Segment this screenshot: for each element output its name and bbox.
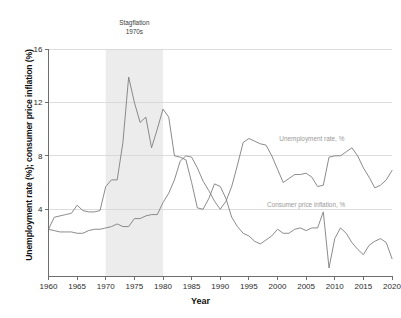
x-axis-title: Year [0, 296, 401, 306]
x-tick-label-1990: 1990 [211, 282, 229, 291]
annotation-label-line1: Stagflation [119, 19, 150, 27]
tick-labels: 4812161960196519701975198019851990199520… [34, 45, 401, 291]
series-label-unemployment-rate: Unemployment rate, % [279, 135, 344, 143]
y-tick-label-4: 4 [38, 205, 43, 214]
axes [45, 49, 392, 280]
y-tick-label-16: 16 [34, 45, 43, 54]
x-tick-label-2020: 2020 [383, 282, 401, 291]
series-label-consumer-price-inflation: Consumer price inflation, % [267, 201, 345, 209]
x-tick-label-1985: 1985 [183, 282, 201, 291]
x-tick-label-1980: 1980 [154, 282, 172, 291]
stagflation-band-rect [106, 49, 163, 276]
x-tick-label-2005: 2005 [297, 282, 315, 291]
series-line-unemployment-rate [49, 138, 393, 233]
gridlines [49, 49, 393, 209]
data-series-lines [49, 77, 393, 268]
y-tick-label-12: 12 [34, 98, 43, 107]
annotation-label-line2: 1970s [126, 28, 143, 35]
x-tick-label-2010: 2010 [326, 282, 344, 291]
x-tick-label-2015: 2015 [354, 282, 372, 291]
stagflation-shaded-band [106, 49, 163, 276]
x-tick-label-1975: 1975 [125, 282, 143, 291]
y-tick-label-8: 8 [38, 152, 43, 161]
x-tick-label-1965: 1965 [68, 282, 86, 291]
x-tick-label-1960: 1960 [40, 282, 58, 291]
chart-figure: 4812161960196519701975198019851990199520… [0, 0, 401, 318]
series-line-consumer-price-inflation [49, 77, 393, 268]
chart-annotations: Stagflation1970s [119, 19, 150, 35]
chart-plot-svg: 4812161960196519701975198019851990199520… [0, 0, 401, 318]
x-tick-label-1970: 1970 [97, 282, 115, 291]
x-tick-label-2000: 2000 [269, 282, 287, 291]
y-axis-title: Unemployment rate (%); consumer price in… [24, 30, 34, 280]
x-tick-label-1995: 1995 [240, 282, 258, 291]
